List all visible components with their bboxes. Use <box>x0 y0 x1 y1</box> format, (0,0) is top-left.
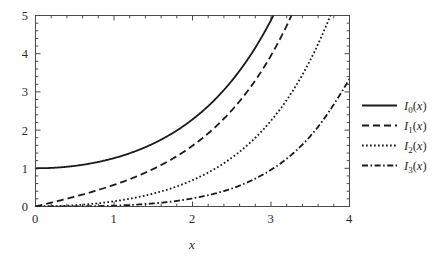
bessel-function-plot: 0 1 2 3 4 0 1 2 3 4 5 x I0(x) I1(x) I2(x… <box>0 0 443 268</box>
y-tick-label-3: 3 <box>22 85 28 99</box>
legend-label-i3: I3(x) <box>403 159 427 175</box>
legend-label-i0: I0(x) <box>403 99 427 115</box>
x-axis-title: x <box>188 237 195 252</box>
x-tick-label-0: 0 <box>32 212 38 226</box>
x-tick-label-3: 3 <box>267 212 273 226</box>
legend-label-i2: I2(x) <box>403 139 427 155</box>
y-tick-label-5: 5 <box>22 9 28 23</box>
y-tick-label-0: 0 <box>22 200 28 214</box>
x-tick-label-4: 4 <box>346 212 353 226</box>
y-tick-label-2: 2 <box>22 124 28 138</box>
legend-label-i1: I1(x) <box>403 119 427 135</box>
plot-background <box>0 0 443 268</box>
y-tick-label-1: 1 <box>22 162 28 176</box>
x-tick-label-2: 2 <box>189 212 195 226</box>
plot-svg: 0 1 2 3 4 0 1 2 3 4 5 x I0(x) I1(x) I2(x… <box>0 0 443 268</box>
y-tick-label-4: 4 <box>22 47 29 61</box>
x-tick-label-1: 1 <box>110 212 116 226</box>
